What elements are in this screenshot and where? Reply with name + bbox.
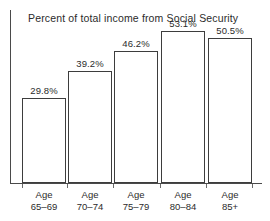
x-tick-label-line2: 85+ [200, 201, 260, 213]
bar-age-75-79[interactable] [114, 51, 158, 183]
bar-value-label-age-70-74: 39.2% [60, 58, 120, 69]
x-tick-label-line1: Age [200, 189, 260, 201]
plot-area: 29.8% 39.2% 46.2% 53.1% 50.5% [0, 0, 270, 221]
bar-value-label-age-85-plus: 50.5% [200, 25, 260, 36]
bar-age-70-74[interactable] [68, 71, 112, 183]
bar-age-80-84[interactable] [161, 31, 205, 183]
x-tick-label-age-85-plus: Age 85+ [200, 189, 260, 213]
bar-value-label-age-75-79: 46.2% [106, 38, 166, 49]
bar-value-label-age-65-69: 29.8% [14, 85, 74, 96]
bar-age-85-plus[interactable] [208, 38, 252, 183]
bar-chart: Percent of total income from Social Secu… [0, 0, 270, 221]
bar-age-65-69[interactable] [22, 98, 66, 183]
